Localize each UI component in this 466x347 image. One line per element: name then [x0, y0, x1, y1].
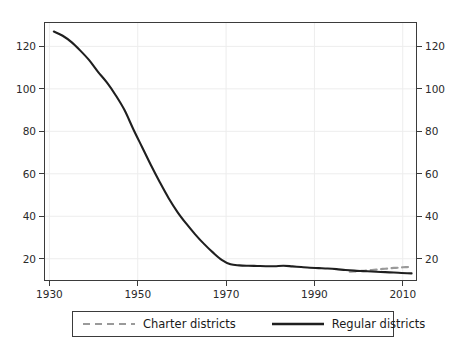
legend-label-regular: Regular districts: [332, 317, 426, 331]
x-axis-label: 2010: [378, 289, 428, 300]
solid-line-key: [272, 318, 324, 330]
chart-legend: Charter districts Regular districts: [72, 311, 394, 337]
y-axis-tick-left: [39, 173, 44, 174]
plot-svg: [45, 23, 416, 280]
x-axis-tick: [49, 281, 50, 286]
y-axis-label-left: 60: [23, 169, 36, 180]
y-axis-label-right: 40: [425, 211, 438, 222]
y-axis-tick-left: [39, 258, 44, 259]
y-axis-label-left: 40: [23, 211, 36, 222]
y-axis-tick-left: [39, 216, 44, 217]
y-axis-tick-left: [39, 131, 44, 132]
chart-figure: 2020404060608080100100120120193019501970…: [0, 0, 466, 347]
plot-inner: [45, 23, 416, 280]
data-series-layer: [54, 32, 412, 274]
y-axis-label-left: 20: [23, 254, 36, 265]
y-axis-label-right: 60: [425, 169, 438, 180]
y-axis-tick-right: [417, 216, 422, 217]
y-axis-label-right: 100: [425, 84, 445, 95]
y-axis-tick-right: [417, 258, 422, 259]
x-axis-tick: [137, 281, 138, 286]
y-axis-tick-right: [417, 88, 422, 89]
x-axis-label: 1970: [201, 289, 251, 300]
y-axis-tick-right: [417, 173, 422, 174]
x-axis-tick: [402, 281, 403, 286]
x-axis-tick: [226, 281, 227, 286]
legend-label-charter: Charter districts: [143, 317, 236, 331]
legend-item-charter[interactable]: Charter districts: [73, 312, 236, 336]
x-axis-label: 1950: [113, 289, 163, 300]
y-axis-label-right: 120: [425, 41, 445, 52]
plot-area: [44, 22, 417, 281]
y-axis-label-right: 20: [425, 254, 438, 265]
x-axis-label: 1930: [24, 289, 74, 300]
y-axis-label-left: 100: [16, 84, 36, 95]
y-axis-tick-right: [417, 46, 422, 47]
series-line-regular-districts: [54, 32, 412, 274]
y-axis-tick-left: [39, 88, 44, 89]
y-axis-label-left: 80: [23, 126, 36, 137]
y-axis-tick-right: [417, 131, 422, 132]
y-axis-tick-left: [39, 46, 44, 47]
y-axis-label-right: 80: [425, 126, 438, 137]
dashed-line-key: [83, 318, 135, 330]
gridlines: [45, 23, 416, 280]
legend-item-regular[interactable]: Regular districts: [262, 312, 426, 336]
x-axis-tick: [314, 281, 315, 286]
x-axis-label: 1990: [289, 289, 339, 300]
y-axis-label-left: 120: [16, 41, 36, 52]
